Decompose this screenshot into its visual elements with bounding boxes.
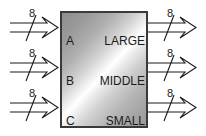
bus-width-label-middle: 8	[167, 48, 173, 59]
bus-width-label-c: 8	[29, 88, 35, 99]
bus-width-label-b: 8	[29, 48, 35, 59]
input-port-label-b: B	[66, 75, 74, 87]
output-port-label-large: LARGE	[104, 35, 145, 47]
output-port-label-middle: MIDDLE	[100, 75, 145, 87]
input-port-label-a: A	[66, 35, 74, 47]
diagram-canvas: A B C LARGE MIDDLE SMALL 8 8 8 8 8 8	[0, 0, 206, 136]
output-port-label-small: SMALL	[106, 115, 145, 127]
bus-width-label-small: 8	[167, 88, 173, 99]
comparator-block: A B C LARGE MIDDLE SMALL	[60, 11, 148, 128]
bus-width-label-large: 8	[167, 8, 173, 19]
bus-width-label-a: 8	[29, 8, 35, 19]
input-port-label-c: C	[66, 115, 75, 127]
